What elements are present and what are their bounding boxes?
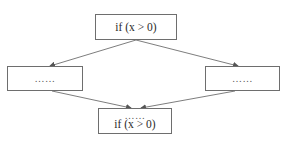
node-right-branch: …… bbox=[205, 66, 280, 91]
node-left-branch: …… bbox=[7, 66, 83, 91]
node-left-ellipsis: …… bbox=[35, 76, 56, 82]
edge-right-to-bottom bbox=[141, 91, 235, 108]
node-top-label: if (x > 0) bbox=[115, 22, 156, 33]
edge-left-to-bottom bbox=[52, 91, 131, 108]
node-right-ellipsis: …… bbox=[232, 76, 253, 82]
edge-top-to-right bbox=[136, 40, 238, 66]
node-bottom-label: if (x > 0) bbox=[114, 119, 155, 130]
edge-top-to-left bbox=[50, 40, 136, 66]
node-top-condition: if (x > 0) bbox=[95, 14, 177, 40]
node-bottom-merge: …… if (x > 0) bbox=[98, 108, 172, 134]
